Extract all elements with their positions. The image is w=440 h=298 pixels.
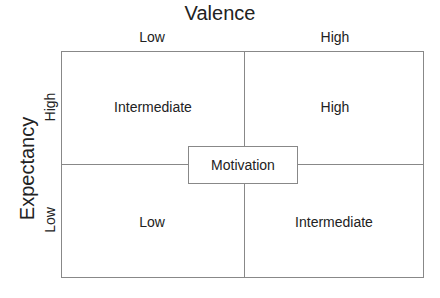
x-level-high: High (275, 29, 395, 45)
motivation-label: Motivation (211, 157, 275, 173)
cell-low-exp-low-val: Low (72, 214, 232, 230)
y-level-high: High (42, 77, 58, 137)
x-axis-title: Valence (0, 2, 440, 25)
y-level-low: Low (42, 190, 58, 250)
cell-low-exp-high-val: Intermediate (254, 214, 414, 230)
motivation-box: Motivation (188, 146, 298, 184)
x-level-low: Low (92, 29, 212, 45)
cell-high-exp-low-val: Intermediate (73, 99, 233, 115)
cell-high-exp-high-val: High (255, 99, 415, 115)
y-axis-title: Expectancy (16, 99, 39, 239)
